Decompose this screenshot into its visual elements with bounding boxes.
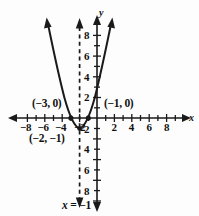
y-axis-name-label: y — [99, 8, 103, 18]
x-tick-label-4: 4 — [129, 122, 134, 133]
root-right-point — [86, 115, 91, 120]
root-left-point — [68, 115, 73, 120]
axis-of-symmetry-line — [76, 18, 84, 208]
y-tick-label-8: 8 — [84, 30, 89, 41]
y-tick-label-neg2: 2 — [84, 124, 89, 135]
line-equation-value: = −1 — [68, 199, 92, 211]
y-tick-label-neg4: 4 — [84, 144, 89, 155]
vertex-annotation: (−2, −1) — [29, 133, 65, 145]
y-tick-label-neg8: 8 — [84, 186, 89, 197]
x-tick-label-6: 6 — [146, 122, 151, 133]
coordinate-plane-svg — [0, 0, 199, 216]
y-tick-label-4: 4 — [84, 72, 89, 83]
root-right-annotation: (−1, 0) — [104, 98, 133, 110]
y-tick-label-neg6: 6 — [84, 165, 89, 176]
graph-figure: −8 −6 −4 −2 2 4 6 8 8 6 4 2 2 4 6 8 y x … — [0, 0, 199, 216]
x-tick-label-8: 8 — [164, 122, 169, 133]
y-tick-label-6: 6 — [84, 51, 89, 62]
x-axis-name-label: x — [189, 113, 194, 123]
y-axis — [93, 15, 101, 212]
root-left-annotation: (−3, 0) — [32, 98, 61, 110]
line-equation-annotation: x = −1 — [62, 200, 91, 212]
x-tick-label-2: 2 — [112, 122, 117, 133]
y-tick-label-2: 2 — [84, 92, 89, 103]
